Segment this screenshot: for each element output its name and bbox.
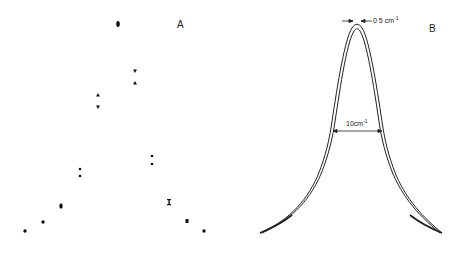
panel-b-lineshape: [260, 24, 442, 233]
data-marker: [116, 21, 120, 27]
data-marker: [151, 155, 154, 158]
width-annotation: 10cm-1: [346, 118, 368, 127]
data-marker: [203, 230, 206, 233]
panel-a-scatter: [23, 21, 205, 233]
width-value: 10cm: [346, 120, 363, 127]
data-marker: [96, 106, 100, 110]
data-marker: [59, 203, 62, 208]
data-marker: [133, 81, 137, 85]
data-marker: [79, 175, 82, 178]
lineshape-tail-right: [410, 215, 442, 233]
width-unit-exponent: -1: [363, 118, 367, 124]
data-marker: [96, 93, 100, 97]
data-marker: [186, 219, 189, 223]
width-arrow: [333, 130, 382, 133]
data-marker: [23, 229, 26, 232]
lineshape-outer-curve: [260, 24, 442, 233]
peak-separation-arrows: [342, 20, 372, 23]
data-marker: [41, 220, 44, 223]
data-marker: [151, 163, 154, 166]
data-marker: [79, 168, 82, 171]
peak-separation-annotation: 0 5 cm-1: [373, 15, 398, 24]
data-marker: [167, 199, 171, 205]
panel-b-label: B: [429, 23, 436, 34]
data-marker: [133, 70, 137, 74]
figure-canvas: [0, 0, 461, 254]
panel-a-label: A: [177, 19, 184, 30]
peak-separation-value: 0 5 cm: [373, 17, 394, 24]
peak-separation-unit-exponent: -1: [394, 15, 398, 21]
